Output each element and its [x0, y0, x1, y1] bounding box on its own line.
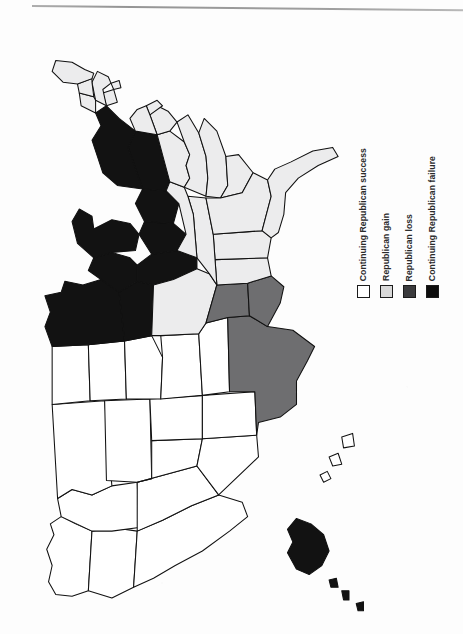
state-florida[interactable] — [262, 147, 338, 238]
legend-item-label: Continuing Republican failure — [428, 156, 437, 281]
us-choropleth-map — [0, 0, 463, 634]
state-wyoming[interactable] — [105, 399, 152, 482]
state-michigan[interactable] — [72, 209, 139, 258]
legend-item-continuing-republican-failure[interactable]: Continuing Republican failure — [421, 156, 443, 298]
state-montana[interactable] — [52, 401, 112, 499]
legend-item-label: Republican loss — [405, 214, 414, 281]
scanned-page: Continuing Republican success Republican… — [0, 0, 463, 634]
state-south-dakota[interactable] — [88, 341, 126, 401]
state-oregon[interactable] — [88, 528, 137, 599]
map-legend: Continuing Republican success Republican… — [352, 128, 444, 298]
legend-item-label: Republican gain — [382, 213, 391, 281]
legend-item-continuing-republican-success[interactable]: Continuing Republican success — [352, 148, 374, 298]
legend-item-republican-loss[interactable]: Republican loss — [398, 214, 420, 298]
legend-swatch-icon — [426, 285, 439, 298]
state-colorado[interactable] — [150, 395, 202, 440]
state-hawaii[interactable] — [320, 433, 354, 482]
legend-swatch-icon — [403, 285, 416, 298]
state-minnesota[interactable] — [45, 280, 125, 347]
map-figure — [0, 0, 463, 634]
state-rhode-island[interactable] — [111, 80, 121, 89]
state-alaska[interactable] — [287, 518, 329, 574]
legend-item-republican-gain[interactable]: Republican gain — [375, 213, 397, 298]
state-kansas[interactable] — [161, 334, 203, 399]
legend-swatch-icon — [380, 285, 393, 298]
legend-item-label: Continuing Republican success — [359, 148, 368, 281]
legend-swatch-icon — [357, 285, 370, 298]
state-washington[interactable] — [47, 517, 92, 597]
state-oklahoma[interactable] — [199, 318, 230, 396]
state-new-mexico[interactable] — [202, 392, 256, 439]
alaska-aleutian-islands[interactable] — [329, 578, 363, 611]
state-north-dakota[interactable] — [52, 345, 90, 405]
state-alabama[interactable] — [213, 231, 271, 260]
state-maine[interactable] — [52, 61, 94, 85]
state-iowa[interactable] — [119, 281, 153, 341]
state-nebraska[interactable] — [125, 336, 163, 399]
